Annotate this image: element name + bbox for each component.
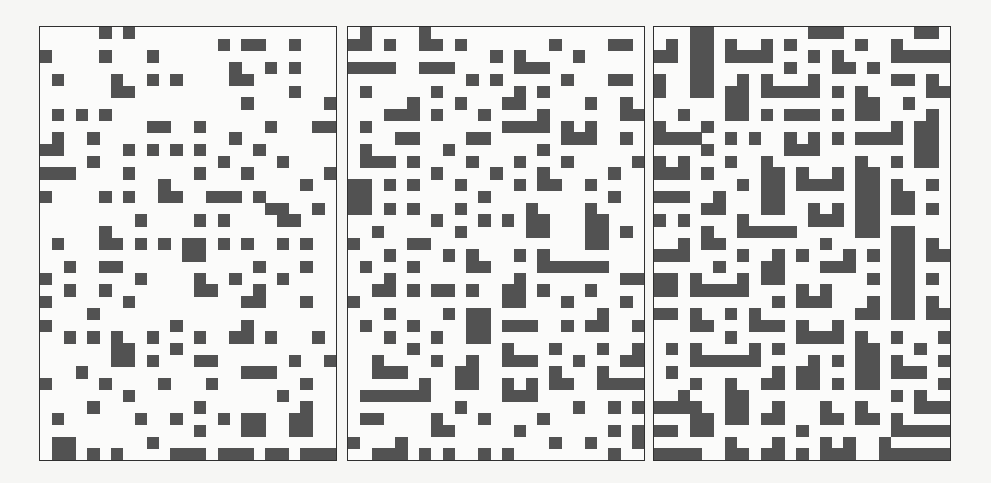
filled-cell: [64, 284, 76, 296]
filled-cell: [772, 261, 784, 273]
filled-cell: [123, 390, 135, 402]
filled-cell: [855, 331, 867, 343]
filled-cell: [218, 238, 230, 250]
filled-cell: [772, 437, 784, 449]
filled-cell: [690, 413, 702, 425]
filled-cell: [241, 238, 253, 250]
filled-cell: [443, 448, 455, 460]
filled-cell: [808, 179, 820, 191]
filled-cell: [938, 50, 950, 62]
filled-cell: [52, 238, 64, 250]
filled-cell: [478, 191, 490, 203]
filled-cell: [537, 121, 549, 133]
filled-cell: [526, 62, 538, 74]
filled-cell: [843, 62, 855, 74]
filled-cell: [903, 74, 915, 86]
filled-cell: [194, 355, 206, 367]
filled-cell: [490, 74, 502, 86]
filled-cell: [832, 320, 844, 332]
filled-cell: [123, 296, 135, 308]
filled-cell: [796, 425, 808, 437]
filled-cell: [360, 203, 372, 215]
filled-cell: [666, 284, 678, 296]
filled-cell: [537, 179, 549, 191]
filled-cell: [194, 273, 206, 285]
filled-cell: [597, 308, 609, 320]
filled-cell: [265, 366, 277, 378]
filled-cell: [431, 62, 443, 74]
filled-cell: [407, 109, 419, 121]
filled-cell: [891, 413, 903, 425]
filled-cell: [690, 355, 702, 367]
filled-cell: [808, 331, 820, 343]
filled-cell: [867, 378, 879, 390]
filled-cell: [64, 448, 76, 460]
filled-cell: [431, 39, 443, 51]
filled-cell: [182, 238, 194, 250]
filled-cell: [938, 86, 950, 98]
filled-cell: [407, 343, 419, 355]
filled-cell: [585, 261, 597, 273]
filled-cell: [455, 39, 467, 51]
filled-cell: [419, 378, 431, 390]
filled-cell: [348, 191, 360, 203]
filled-cell: [99, 191, 111, 203]
filled-cell: [561, 261, 573, 273]
filled-cell: [808, 27, 820, 39]
filled-cell: [820, 261, 832, 273]
filled-cell: [632, 343, 644, 355]
filled-cell: [549, 343, 561, 355]
filled-cell: [526, 214, 538, 226]
filled-cell: [443, 62, 455, 74]
filled-cell: [926, 144, 938, 156]
filled-cell: [938, 378, 950, 390]
filled-cell: [218, 448, 230, 460]
filled-cell: [300, 261, 312, 273]
filled-cell: [277, 390, 289, 402]
filled-cell: [701, 355, 713, 367]
filled-cell: [514, 249, 526, 261]
filled-cell: [265, 62, 277, 74]
filled-cell: [737, 249, 749, 261]
filled-cell: [549, 39, 561, 51]
filled-cell: [855, 355, 867, 367]
filled-cell: [289, 62, 301, 74]
filled-cell: [537, 249, 549, 261]
filled-cell: [867, 191, 879, 203]
filled-cell: [585, 226, 597, 238]
filled-cell: [855, 366, 867, 378]
filled-cell: [879, 448, 891, 460]
filled-cell: [784, 132, 796, 144]
filled-cell: [597, 366, 609, 378]
filled-cell: [277, 214, 289, 226]
filled-cell: [478, 308, 490, 320]
filled-cell: [597, 226, 609, 238]
filled-cell: [466, 284, 478, 296]
filled-cell: [597, 320, 609, 332]
filled-cell: [123, 167, 135, 179]
filled-cell: [701, 144, 713, 156]
filled-cell: [832, 109, 844, 121]
filled-cell: [820, 296, 832, 308]
filled-cell: [466, 355, 478, 367]
filled-cell: [926, 27, 938, 39]
filled-cell: [87, 308, 99, 320]
filled-cell: [832, 179, 844, 191]
filled-cell: [749, 132, 761, 144]
filled-cell: [678, 109, 690, 121]
filled-cell: [170, 74, 182, 86]
filled-cell: [443, 144, 455, 156]
filled-cell: [832, 50, 844, 62]
filled-cell: [514, 156, 526, 168]
filled-cell: [241, 320, 253, 332]
filled-cell: [666, 401, 678, 413]
filled-cell: [903, 448, 915, 460]
filled-cell: [585, 132, 597, 144]
filled-cell: [832, 203, 844, 215]
filled-cell: [713, 284, 725, 296]
filled-cell: [608, 74, 620, 86]
filled-cell: [796, 249, 808, 261]
filled-cell: [147, 144, 159, 156]
filled-cell: [514, 355, 526, 367]
filled-cell: [549, 261, 561, 273]
